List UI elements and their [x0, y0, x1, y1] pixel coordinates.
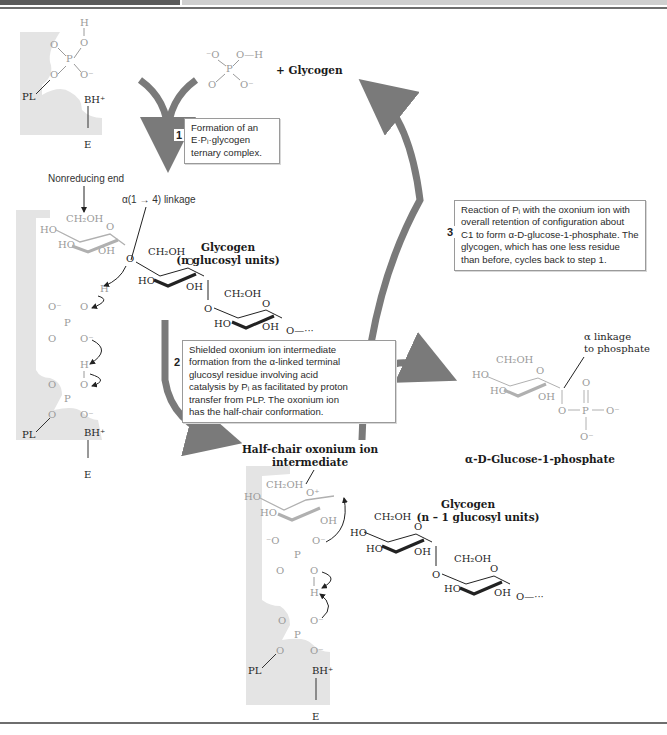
- svg-text:P: P: [226, 63, 233, 74]
- step1-text-line: Formation of an: [191, 122, 273, 134]
- svg-text:HO: HO: [138, 275, 155, 286]
- svg-text:O: O: [204, 303, 212, 314]
- svg-text:O: O: [262, 298, 270, 309]
- svg-text:H: H: [80, 359, 89, 370]
- svg-text:P: P: [582, 405, 589, 416]
- svg-text:O: O: [278, 615, 286, 626]
- svg-text:P: P: [66, 53, 73, 64]
- step3-text-line: glycogen, which has one less residue: [461, 241, 639, 253]
- svg-text:HO: HO: [58, 239, 75, 250]
- step1-box: Formation of an E·Pᵢ·glycogen ternary co…: [184, 118, 280, 164]
- glucose-1-phosphate: CH₂OH O HO HO OH O P O⁻ O O⁻: [472, 354, 619, 442]
- svg-text:E: E: [84, 139, 91, 150]
- enzyme-pocket-2: CH₂OH HO HO OH O O H O⁻ O P O O⁻ H O O P…: [16, 210, 134, 480]
- svg-text:O: O: [208, 79, 216, 90]
- svg-text:OH: OH: [414, 546, 431, 557]
- svg-text:O: O: [490, 563, 498, 574]
- svg-text:PL: PL: [22, 91, 36, 102]
- nonreducing-end-label: Nonreducing end: [48, 173, 124, 184]
- plus-glycogen-label: + Glycogen: [276, 64, 343, 76]
- svg-text:O⁻: O⁻: [80, 409, 93, 420]
- half-chair-label-1: Half-chair oxonium ion: [242, 443, 379, 455]
- svg-text:⁻O: ⁻O: [206, 49, 219, 60]
- svg-text:HO: HO: [244, 491, 261, 502]
- svg-text:O: O: [536, 365, 544, 376]
- glycogen-n1-rings: CH₂OH O HO HO OH O CH₂OH O HO OH O—···: [350, 511, 544, 602]
- svg-text:BH⁺: BH⁺: [312, 665, 333, 676]
- svg-text:CH₂OH: CH₂OH: [148, 246, 186, 257]
- step3-text-line: C1 to form α-D-glucose-1-phosphate. The: [461, 229, 639, 241]
- inorganic-phosphate: ⁻O O—H P O O⁻: [206, 49, 263, 90]
- step2-text-line: transfer from PLP. The oxonium ion: [189, 394, 389, 406]
- svg-text:O: O: [106, 221, 114, 232]
- svg-text:HO: HO: [472, 369, 489, 380]
- step2-text-line: glucosyl residue involving acid: [189, 369, 389, 381]
- svg-text:⁻O: ⁻O: [266, 535, 279, 546]
- svg-text:O: O: [80, 379, 88, 390]
- svg-text:O: O: [48, 333, 56, 344]
- svg-text:CH₂OH: CH₂OH: [66, 213, 104, 224]
- svg-text:O: O: [50, 69, 58, 80]
- step2-text-line: catalysis by Pᵢ as facilitated by proton: [189, 381, 389, 393]
- svg-text:O⁻: O⁻: [310, 615, 323, 626]
- step3-text-line: overall retention of configuration about: [461, 216, 639, 228]
- svg-text:O⁻: O⁻: [48, 301, 61, 312]
- svg-text:CH₂OH: CH₂OH: [266, 479, 304, 490]
- svg-text:CH₂OH: CH₂OH: [224, 288, 262, 299]
- step2-text-line: formation from the α-linked terminal: [189, 356, 389, 368]
- linkage-label: α(1 → 4) linkage: [122, 194, 196, 205]
- svg-text:OH: OH: [262, 321, 279, 332]
- svg-text:P: P: [294, 629, 301, 640]
- svg-text:OH: OH: [538, 391, 555, 402]
- svg-text:P: P: [64, 317, 71, 328]
- svg-text:O: O: [80, 37, 88, 48]
- svg-text:OH: OH: [186, 281, 203, 292]
- svg-text:O—···: O—···: [286, 325, 314, 336]
- step2-number: 2: [172, 356, 182, 368]
- glycogen-n1-subtitle: (n – 1 glucosyl units): [416, 511, 539, 523]
- svg-text:O⁻: O⁻: [580, 431, 593, 442]
- svg-text:OH: OH: [494, 587, 511, 598]
- svg-text:PL: PL: [22, 429, 36, 440]
- svg-text:HO: HO: [214, 318, 231, 329]
- glycogen-n1-title: Glycogen: [441, 498, 495, 510]
- step1-text-line: ternary complex.: [191, 147, 273, 159]
- svg-text:HO: HO: [260, 507, 277, 518]
- step1-number: 1: [174, 129, 184, 141]
- svg-text:HO: HO: [444, 583, 461, 594]
- step3-text-line: Reaction of Pᵢ with the oxonium ion with: [461, 204, 639, 216]
- step2-text-line: Shielded oxonium ion intermediate: [189, 344, 389, 356]
- svg-text:O⁻: O⁻: [80, 333, 93, 344]
- svg-text:HO: HO: [40, 224, 57, 235]
- step3-number: 3: [445, 226, 455, 238]
- svg-text:CH₂OH: CH₂OH: [374, 511, 412, 522]
- svg-text:O⁻: O⁻: [312, 535, 325, 546]
- svg-text:O: O: [414, 521, 422, 532]
- svg-text:P: P: [64, 393, 71, 404]
- svg-text:O⁻: O⁻: [310, 645, 323, 656]
- product-label: α-D-Glucose-1-phosphate: [465, 453, 615, 465]
- step3-box: Reaction of Pᵢ with the oxonium ion with…: [454, 200, 646, 271]
- step2-box: Shielded oxonium ion intermediate format…: [182, 340, 396, 423]
- svg-text:E: E: [84, 469, 91, 480]
- svg-text:O: O: [310, 565, 318, 576]
- svg-text:O: O: [582, 377, 590, 388]
- svg-text:O⁻: O⁻: [240, 79, 253, 90]
- svg-text:O: O: [126, 253, 134, 264]
- svg-text:BH⁺: BH⁺: [84, 94, 105, 105]
- svg-text:O: O: [276, 565, 284, 576]
- svg-text:O: O: [276, 645, 284, 656]
- svg-text:O: O: [558, 405, 566, 416]
- svg-text:O: O: [80, 301, 88, 312]
- svg-text:O⁻: O⁻: [606, 405, 619, 416]
- enzyme-pocket-3: CH₂OH HO HO OH O⁺ ⁻O O⁻ P O O H O O⁻ P O…: [244, 466, 345, 722]
- step2-text-line: has the half-chair conformation.: [189, 406, 389, 418]
- svg-text:OH: OH: [320, 515, 337, 526]
- svg-text:O: O: [432, 569, 440, 580]
- svg-text:H: H: [80, 17, 89, 28]
- svg-text:O: O: [50, 39, 58, 50]
- svg-text:CH₂OH: CH₂OH: [454, 553, 492, 564]
- svg-text:O: O: [186, 256, 194, 267]
- svg-text:PL: PL: [248, 665, 262, 676]
- step1-text-line: E·Pᵢ·glycogen: [191, 134, 273, 146]
